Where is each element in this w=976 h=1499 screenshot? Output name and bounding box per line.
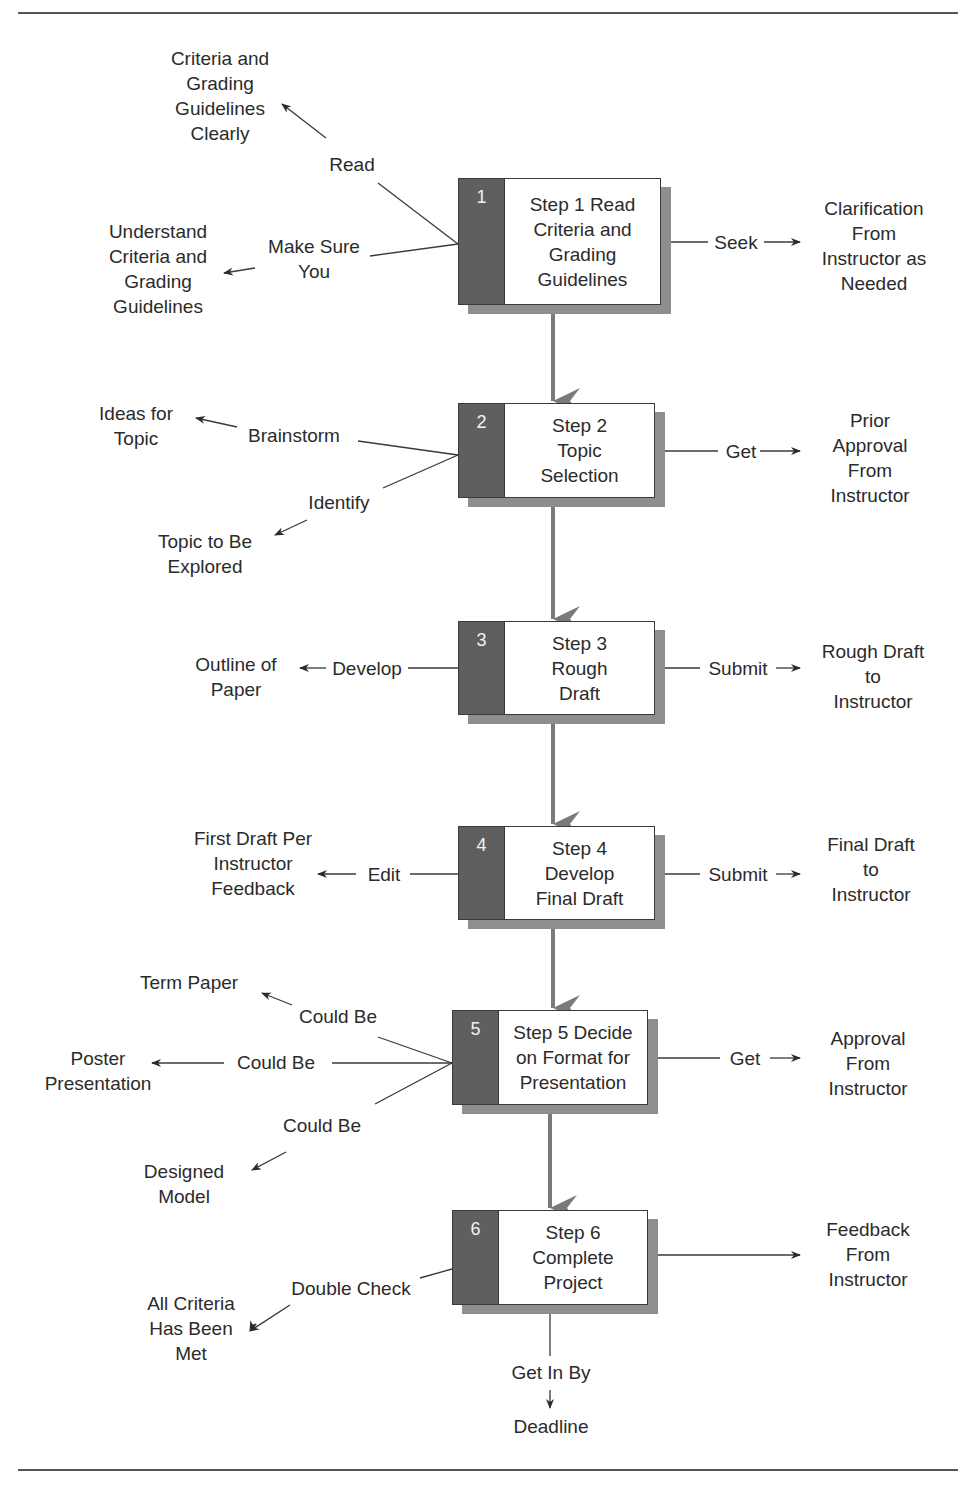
action-target: Feedback From Instructor [808, 1217, 928, 1292]
step-number-badge: 6 [453, 1211, 499, 1304]
action-target: Poster Presentation [36, 1046, 160, 1096]
step-number-badge: 4 [459, 827, 505, 919]
action-verb: Make Sure You [252, 234, 376, 284]
step-number-badge: 1 [459, 179, 505, 304]
step-2-box: 2 Step 2 Topic Selection [458, 403, 655, 498]
step-6-box: 6 Step 6 Complete Project [452, 1210, 648, 1305]
action-target: Criteria and Grading Guidelines Clearly [140, 46, 300, 146]
action-verb: Could Be [228, 1050, 324, 1075]
action-target: First Draft Per Instructor Feedback [180, 826, 326, 901]
step-1-box: 1 Step 1 Read Criteria and Grading Guide… [458, 178, 661, 305]
action-verb: Identify [296, 490, 382, 515]
step-title: Step 2 Topic Selection [505, 404, 654, 497]
action-target: Ideas for Topic [86, 401, 186, 451]
action-target: Topic to Be Explored [140, 529, 270, 579]
step-title: Step 3 Rough Draft [505, 622, 654, 714]
action-verb: Brainstorm [234, 423, 354, 448]
step-title: Step 5 Decide on Format for Presentation [499, 1011, 647, 1104]
action-target: Outline of Paper [180, 652, 292, 702]
action-verb: Seek [706, 230, 766, 255]
step-number-badge: 3 [459, 622, 505, 714]
step-title: Step 4 Develop Final Draft [505, 827, 654, 919]
action-verb: Could Be [290, 1004, 386, 1029]
step-4-box: 4 Step 4 Develop Final Draft [458, 826, 655, 920]
action-verb: Develop [326, 656, 408, 681]
step-3-box: 3 Step 3 Rough Draft [458, 621, 655, 715]
action-target: Rough Draft to Instructor [808, 639, 938, 714]
step-title: Step 6 Complete Project [499, 1211, 647, 1304]
step-number-badge: 5 [453, 1011, 499, 1104]
action-target: Final Draft to Instructor [808, 832, 934, 907]
action-target: Approval From Instructor [808, 1026, 928, 1101]
action-verb: Get In By [496, 1360, 606, 1385]
action-target: All Criteria Has Been Met [136, 1291, 246, 1366]
action-target: Term Paper [124, 970, 254, 995]
action-verb: Edit [358, 862, 410, 887]
action-verb: Double Check [282, 1276, 420, 1301]
action-verb: Get [720, 1046, 770, 1071]
step-number-badge: 2 [459, 404, 505, 497]
action-target: Prior Approval From Instructor [810, 408, 930, 508]
action-target: Deadline [496, 1414, 606, 1439]
step-5-box: 5 Step 5 Decide on Format for Presentati… [452, 1010, 648, 1105]
action-verb: Get [716, 439, 766, 464]
action-verb: Submit [700, 656, 776, 681]
action-target: Clarification From Instructor as Needed [804, 196, 944, 296]
action-target: Designed Model [134, 1159, 234, 1209]
action-target: Understand Criteria and Grading Guidelin… [88, 219, 228, 319]
action-verb: Submit [700, 862, 776, 887]
action-verb: Could Be [274, 1113, 370, 1138]
action-verb: Read [312, 152, 392, 177]
step-title: Step 1 Read Criteria and Grading Guideli… [505, 179, 660, 304]
